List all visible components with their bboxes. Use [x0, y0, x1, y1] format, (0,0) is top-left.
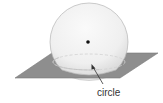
- sphere-plane-diagram: circle: [0, 0, 163, 103]
- circle-label: circle: [97, 87, 121, 98]
- sphere: [50, 3, 128, 75]
- center-dot: [86, 40, 90, 44]
